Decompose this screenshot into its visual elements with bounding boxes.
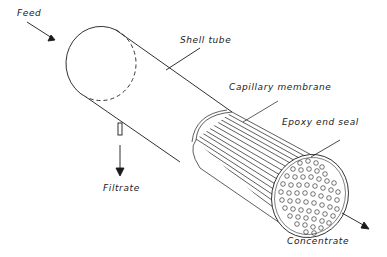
filtrate-label: Filtrate	[103, 183, 140, 193]
epoxy-end-seal-label: Epoxy end seal	[282, 117, 359, 127]
concentrate-arrow	[342, 213, 369, 229]
feed-arrow	[27, 22, 55, 41]
epoxy-end-seal	[260, 140, 360, 248]
shell-tube-label: Shell tube	[180, 35, 231, 45]
filtrate-nozzle	[116, 123, 124, 176]
concentrate-label: Concentrate	[287, 236, 349, 246]
feed-label: Feed	[17, 8, 41, 18]
capillary-membrane-label: Capillary membrane	[229, 82, 331, 92]
